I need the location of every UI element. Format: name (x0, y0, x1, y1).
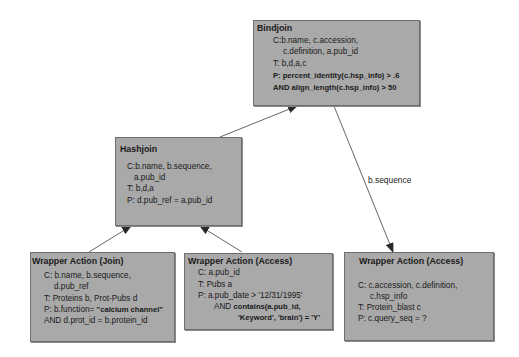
node-line-predicate-cont: AND contains(a.pub_id, (214, 302, 301, 312)
node-title: Wrapper Action (Join) (32, 256, 123, 266)
node-line-columns-cont: c.hsp_info (370, 292, 407, 302)
node-bindjoin[interactable]: Bindjoin C:b.name, c.accession, c.defini… (253, 20, 420, 106)
predicate-and: AND (214, 302, 234, 311)
edge-access-to-hashjoin (200, 226, 242, 252)
node-line-columns-cont: a.pub_id (134, 173, 165, 183)
predicate-value: "calcium channel" (97, 305, 163, 314)
node-line-tables: T: Pubs a (198, 280, 232, 290)
node-line-tables: T: b,d,a (127, 184, 154, 194)
node-title: Wrapper Action (Access) (188, 256, 292, 266)
edge-join-to-hashjoin (89, 226, 131, 252)
node-line-predicate: P: percent_identity(c.hsp_info) > .6 (273, 71, 399, 81)
node-line-columns: C: b.name, b.sequence, (44, 271, 131, 281)
node-line-predicate: P: a.pub_date > '12/31/1995' (198, 291, 302, 301)
node-line-predicate: P: d.pub_ref = a.pub_id (127, 196, 212, 206)
node-title: Wrapper Action (Access) (359, 256, 463, 266)
node-title: Bindjoin (257, 23, 292, 33)
node-wrapper-access-blast[interactable]: Wrapper Action (Access) C: c.accession, … (344, 252, 494, 341)
predicate-contains: contains(a.pub_id, (234, 302, 301, 311)
node-line-predicate: P: b.function= "calcium channel" (44, 305, 163, 315)
node-hashjoin[interactable]: Hashjoin C:b.name, b.sequence, a.pub_id … (115, 137, 242, 226)
node-line-tables: T: Proteins b, Prot-Pubs d (44, 294, 137, 304)
node-line-columns-cont: d.pub_ref (54, 282, 89, 292)
node-wrapper-join[interactable]: Wrapper Action (Join) C: b.name, b.seque… (30, 252, 175, 342)
node-line-tables: T: Protein_blast c (358, 303, 421, 313)
node-line-columns: C: c.accession, c.definition, (358, 281, 457, 291)
node-line-predicate-args: 'Keyword', 'brain') = 'Y' (238, 313, 320, 323)
node-line-predicate: P: c.query_seq = ? (358, 314, 427, 324)
node-title: Hashjoin (120, 144, 157, 154)
node-line-predicate-cont: AND align_length(c.hsp_info) > 50 (273, 83, 396, 93)
node-line-columns: C:b.name, b.sequence, (127, 162, 212, 172)
node-line-columns-cont: c.definition, a.pub_id (283, 47, 358, 57)
node-line-columns: C:b.name, c.accession, (273, 36, 358, 46)
node-line-predicate-cont: AND d.prot_id = b.protein_id (44, 316, 148, 326)
node-wrapper-access-pubs[interactable]: Wrapper Action (Access) C: a.pub_id T: P… (184, 253, 333, 330)
edge-label-b-sequence: b.sequence (368, 175, 411, 185)
predicate-prefix: P: b.function= (44, 305, 97, 314)
edge-hashjoin-to-bindjoin (220, 106, 297, 137)
node-line-tables: T: b,d,a,c (273, 59, 306, 69)
node-line-columns: C: a.pub_id (198, 268, 240, 278)
